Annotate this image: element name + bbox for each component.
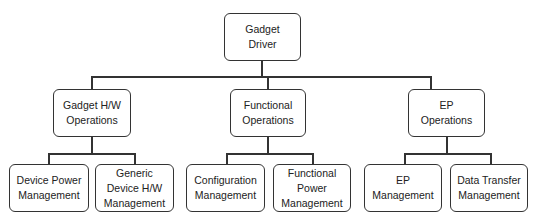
connector-functional-bus: [226, 153, 313, 155]
node-functional-operations: Functional Operations: [230, 89, 306, 137]
connector-gadget-hw-bus: [48, 153, 135, 155]
node-functional-power-management: Functional Power Management: [273, 164, 351, 212]
node-label-line: Configuration: [194, 173, 256, 188]
node-label-line: Operations: [421, 113, 472, 128]
connector-to-generic-device: [134, 153, 136, 164]
node-label-line: Management: [372, 188, 433, 203]
node-label-line: Gadget H/W: [63, 98, 121, 113]
connector-to-ep-management: [404, 153, 406, 164]
node-label-line: Management: [281, 196, 342, 211]
connector-gadget-hw-down: [91, 136, 93, 153]
node-label-line: Operations: [242, 113, 293, 128]
node-generic-device-hw-management: Generic Device H/W Management: [95, 164, 174, 212]
connector-to-gadget-hw: [91, 76, 93, 89]
node-label-line: Generic: [116, 166, 153, 181]
node-ep-operations: EP Operations: [408, 89, 485, 137]
node-gadget-hw-operations: Gadget H/W Operations: [53, 89, 131, 137]
node-label-line: Device H/W: [107, 181, 162, 196]
node-label-line: Power: [297, 181, 327, 196]
node-ep-management: EP Management: [364, 164, 442, 212]
connector-to-device-power: [48, 153, 50, 164]
node-configuration-management: Configuration Management: [186, 164, 265, 212]
connector-to-configuration: [226, 153, 228, 164]
connector-to-functional: [267, 76, 269, 89]
connector-to-functional-power: [312, 153, 314, 164]
node-label-line: Management: [458, 188, 519, 203]
node-gadget-driver: Gadget Driver: [224, 13, 301, 61]
node-label-line: EP: [396, 173, 410, 188]
connector-to-data-transfer: [490, 153, 492, 164]
node-label-line: Driver: [249, 37, 277, 52]
connector-ep-down: [446, 136, 448, 153]
connector-functional-down: [267, 136, 269, 153]
node-label-line: Operations: [66, 113, 117, 128]
node-label-line: Management: [195, 188, 256, 203]
connector-root-down: [261, 60, 263, 76]
node-label-line: Management: [18, 188, 79, 203]
connector-ep-bus: [404, 153, 491, 155]
node-device-power-management: Device Power Management: [9, 164, 89, 212]
node-label-line: Device Power: [17, 173, 82, 188]
node-label-line: Functional: [244, 98, 292, 113]
node-data-transfer-management: Data Transfer Management: [450, 164, 528, 212]
node-label-line: Data Transfer: [457, 173, 521, 188]
node-label-line: EP: [439, 98, 453, 113]
connector-to-ep: [430, 76, 432, 89]
node-label-line: Functional: [288, 166, 336, 181]
node-label-line: Management: [104, 196, 165, 211]
node-label-line: Gadget: [245, 22, 279, 37]
connector-level1-bus: [91, 76, 431, 78]
